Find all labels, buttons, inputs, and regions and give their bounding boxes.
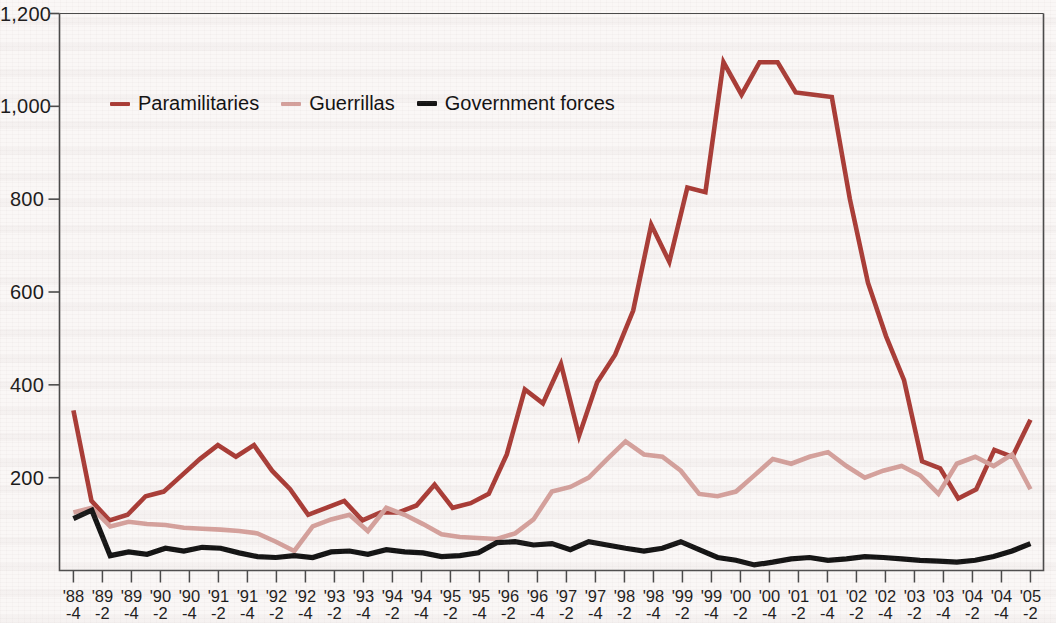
series-line-paramilitaries (73, 62, 1030, 520)
y-ticks (49, 14, 60, 478)
x-tick-label: '95-4 (464, 588, 494, 622)
x-tick-label: '00-2 (725, 588, 755, 622)
x-tick-semester: -4 (754, 605, 784, 622)
x-tick-year: '92 (261, 588, 291, 605)
series-line-government-forces (73, 510, 1030, 565)
x-tick-label: '01-2 (783, 588, 813, 622)
x-tick-label: '96-4 (522, 588, 552, 622)
legend-swatch-icon (110, 102, 130, 106)
x-tick-semester: -4 (290, 605, 320, 622)
x-tick-label: '02-4 (870, 588, 900, 622)
x-tick-semester: -4 (928, 605, 958, 622)
x-tick-label: '96-2 (493, 588, 523, 622)
x-tick-label: '94-2 (377, 588, 407, 622)
x-tick-year: '92 (290, 588, 320, 605)
x-tick-label: '90-4 (174, 588, 204, 622)
x-tick-year: '90 (145, 588, 175, 605)
x-tick-semester: -2 (145, 605, 175, 622)
x-tick-year: '94 (377, 588, 407, 605)
x-tick-semester: -4 (522, 605, 552, 622)
x-tick-label: '92-4 (290, 588, 320, 622)
x-tick-semester: -4 (232, 605, 262, 622)
x-tick-year: '99 (696, 588, 726, 605)
x-tick-label: '93-4 (348, 588, 378, 622)
x-tick-semester: -4 (638, 605, 668, 622)
chart-legend: ParamilitariesGuerrillasGovernment force… (110, 92, 615, 115)
x-tick-label: '97-2 (551, 588, 581, 622)
x-tick-label: '98-4 (638, 588, 668, 622)
x-tick-year: '96 (493, 588, 523, 605)
x-tick-year: '88 (58, 588, 88, 605)
x-tick-year: '94 (406, 588, 436, 605)
x-tick-semester: -4 (116, 605, 146, 622)
legend-item-government-forces[interactable]: Government forces (417, 92, 615, 115)
x-tick-year: '90 (174, 588, 204, 605)
x-tick-label: '02-2 (841, 588, 871, 622)
x-tick-semester: -2 (783, 605, 813, 622)
x-tick-semester: -4 (696, 605, 726, 622)
x-tick-year: '97 (580, 588, 610, 605)
x-tick-year: '96 (522, 588, 552, 605)
x-tick-year: '97 (551, 588, 581, 605)
x-tick-label: '90-2 (145, 588, 175, 622)
x-tick-year: '03 (899, 588, 929, 605)
x-tick-year: '98 (609, 588, 639, 605)
x-tick-semester: -2 (435, 605, 465, 622)
x-tick-label: '89-2 (87, 588, 117, 622)
x-tick-year: '03 (928, 588, 958, 605)
x-tick-year: '02 (870, 588, 900, 605)
x-tick-year: '91 (232, 588, 262, 605)
x-tick-semester: -2 (87, 605, 117, 622)
x-tick-label: '94-4 (406, 588, 436, 622)
x-tick-label: '93-2 (319, 588, 349, 622)
legend-label: Guerrillas (309, 92, 395, 115)
x-tick-label: '91-4 (232, 588, 262, 622)
x-tick-year: '02 (841, 588, 871, 605)
x-tick-label: '04-4 (986, 588, 1016, 622)
x-tick-semester: -2 (493, 605, 523, 622)
x-tick-semester: -4 (812, 605, 842, 622)
x-tick-label: '92-2 (261, 588, 291, 622)
x-tick-label: '91-2 (203, 588, 233, 622)
x-tick-semester: -2 (725, 605, 755, 622)
x-tick-label: '00-4 (754, 588, 784, 622)
x-tick-label: '04-2 (957, 588, 987, 622)
x-tick-label: '98-2 (609, 588, 639, 622)
legend-swatch-icon (281, 102, 301, 106)
legend-label: Government forces (445, 92, 615, 115)
x-tick-semester: -4 (406, 605, 436, 622)
x-tick-label: '88-4 (58, 588, 88, 622)
x-tick-year: '89 (87, 588, 117, 605)
x-tick-semester: -4 (348, 605, 378, 622)
legend-item-paramilitaries[interactable]: Paramilitaries (110, 92, 259, 115)
x-tick-label: '99-2 (667, 588, 697, 622)
x-tick-label: '89-4 (116, 588, 146, 622)
x-tick-label: '97-4 (580, 588, 610, 622)
x-tick-year: '00 (754, 588, 784, 605)
x-tick-year: '98 (638, 588, 668, 605)
x-ticks (73, 571, 1030, 583)
x-tick-year: '89 (116, 588, 146, 605)
x-tick-year: '01 (783, 588, 813, 605)
x-tick-semester: -2 (1015, 605, 1045, 622)
x-tick-year: '93 (348, 588, 378, 605)
legend-swatch-icon (417, 101, 437, 106)
legend-item-guerrillas[interactable]: Guerrillas (281, 92, 395, 115)
x-tick-year: '93 (319, 588, 349, 605)
x-tick-semester: -2 (667, 605, 697, 622)
x-tick-year: '91 (203, 588, 233, 605)
x-tick-semester: -2 (841, 605, 871, 622)
x-tick-semester: -4 (986, 605, 1016, 622)
x-tick-year: '01 (812, 588, 842, 605)
x-tick-label: '03-4 (928, 588, 958, 622)
x-tick-label: '03-2 (899, 588, 929, 622)
x-tick-semester: -4 (58, 605, 88, 622)
x-tick-semester: -2 (957, 605, 987, 622)
x-tick-year: '04 (957, 588, 987, 605)
x-tick-label: '99-4 (696, 588, 726, 622)
x-tick-year: '95 (435, 588, 465, 605)
x-tick-semester: -4 (174, 605, 204, 622)
x-tick-semester: -2 (609, 605, 639, 622)
x-tick-semester: -2 (319, 605, 349, 622)
x-tick-label: '95-2 (435, 588, 465, 622)
